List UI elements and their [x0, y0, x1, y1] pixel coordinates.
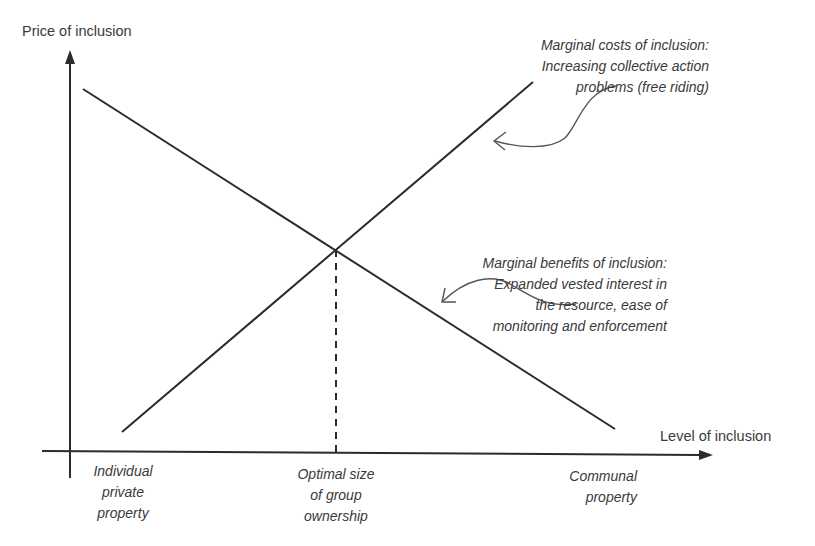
marker-line: Optimal size	[281, 464, 391, 485]
marker-line: ownership	[281, 506, 391, 527]
marker-line: property	[78, 503, 168, 524]
x-axis-arrowhead-icon	[699, 450, 713, 460]
annotation-line: problems (free riding)	[541, 77, 709, 98]
marker-line: Individual	[78, 461, 168, 482]
marginal-costs-annotation: Marginal costs of inclusion: Increasing …	[541, 35, 709, 98]
y-axis-label: Price of inclusion	[22, 23, 132, 40]
marker-line: of group	[281, 485, 391, 506]
marker-line: Communal	[569, 466, 637, 487]
x-axis-label: Level of inclusion	[660, 428, 771, 445]
communal-property-label: Communal property	[569, 466, 637, 508]
annotation-line: monitoring and enforcement	[483, 316, 667, 337]
annotation-line: Marginal costs of inclusion:	[541, 35, 709, 56]
y-axis-arrowhead-icon	[65, 50, 75, 64]
annotation-line: Expanded vested interest in	[483, 274, 667, 295]
marginal-benefits-annotation: Marginal benefits of inclusion: Expanded…	[483, 253, 667, 337]
annotation-line: Increasing collective action	[541, 56, 709, 77]
marginal-costs-line	[122, 82, 533, 432]
marker-line: private	[78, 482, 168, 503]
annotation-line: the resource, ease of	[483, 295, 667, 316]
marker-line: property	[569, 487, 637, 508]
y-axis	[65, 50, 75, 478]
annotation-line: Marginal benefits of inclusion:	[483, 253, 667, 274]
x-axis	[42, 450, 713, 460]
individual-private-property-label: Individual private property	[78, 461, 168, 524]
diagram-figure: Price of inclusion Level of inclusion Ma…	[0, 0, 815, 546]
optimal-size-label: Optimal size of group ownership	[281, 464, 391, 527]
